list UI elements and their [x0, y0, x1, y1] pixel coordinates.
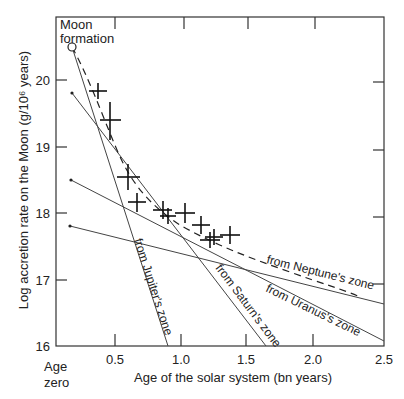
- moon-formation-marker: [68, 43, 76, 51]
- data-point: [117, 164, 140, 190]
- x-tick-0.5: 0.5: [106, 352, 124, 367]
- x-tick-1.0: 1.0: [172, 352, 190, 367]
- uranus-zone-label: from Uranus's zone: [264, 281, 364, 339]
- data-point: [192, 216, 210, 234]
- x-tick-2.5: 2.5: [375, 352, 393, 367]
- moon-formation-label-2: formation: [60, 31, 114, 46]
- total-dashed-line: [72, 47, 360, 297]
- x-tick-1.5: 1.5: [237, 352, 255, 367]
- y-tick-19: 19: [36, 140, 50, 155]
- jupiter-zone-label: from Jupiter's zone: [131, 237, 176, 338]
- observation-crosses: [89, 83, 240, 248]
- x-axis-title: Age of the solar system (bn years): [134, 370, 332, 385]
- y-tick-labels: 20 19 18 17 16: [36, 73, 50, 354]
- y-axis-title: Log accretion rate on the Moon (g/10⁶ ye…: [16, 51, 31, 309]
- y-tick-20: 20: [36, 73, 50, 88]
- y-tick-17: 17: [36, 273, 50, 288]
- saturn-zone-label: from Saturn's zone: [213, 261, 285, 350]
- y-ticks: [56, 80, 384, 284]
- data-point: [220, 226, 240, 244]
- accretion-rate-chart: 20 19 18 17 16 0.5 1.0 1.5 2.0 2.5 Age z…: [0, 0, 404, 399]
- age-zero-label-2: zero: [44, 375, 69, 390]
- plot-frame: [56, 17, 384, 346]
- data-point: [89, 83, 107, 99]
- data-point: [205, 229, 223, 245]
- model-lines: [70, 47, 384, 346]
- y-tick-16: 16: [36, 339, 50, 354]
- data-point: [200, 232, 220, 248]
- line-start-dots: [68, 91, 73, 227]
- data-point: [128, 193, 146, 212]
- age-zero-label-1: Age: [44, 359, 67, 374]
- x-tick-labels: 0.5 1.0 1.5 2.0 2.5: [106, 352, 393, 367]
- saturn-line: [72, 93, 266, 346]
- y-tick-18: 18: [36, 206, 50, 221]
- moon-formation-label-1: Moon: [60, 17, 93, 32]
- data-point: [175, 203, 195, 223]
- x-tick-2.0: 2.0: [304, 352, 322, 367]
